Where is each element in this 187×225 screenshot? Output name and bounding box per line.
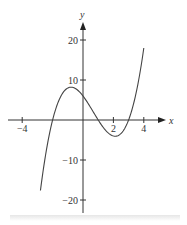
axes: x y: [8, 9, 174, 213]
chart: x y −424 2010−10−20: [0, 0, 187, 225]
x-tick-label: −4: [17, 123, 28, 134]
y-tick-label: −20: [62, 195, 78, 206]
x-axis-arrow-icon: [158, 117, 166, 123]
y-tick-label: 10: [68, 75, 78, 86]
x-axis-label: x: [168, 115, 174, 126]
y-tick-label: 20: [68, 35, 78, 46]
y-axis-label: y: [79, 9, 85, 20]
x-tick-label: 4: [141, 123, 146, 134]
y-tick-label: −10: [62, 155, 78, 166]
series-line: [40, 48, 143, 191]
x-tick-label: 2: [111, 123, 116, 134]
bottom-shadow: [10, 215, 180, 221]
y-axis-arrow-icon: [80, 22, 86, 30]
